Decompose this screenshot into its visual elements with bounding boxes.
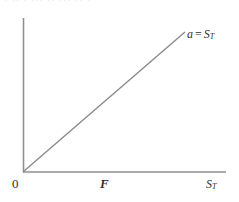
figure-container: · ·· · ··· ·· ··· ·· · 0 F ST a=ST <box>0 0 239 202</box>
equation-operator: = <box>193 27 204 41</box>
curve-equation-label: a=ST <box>187 27 214 42</box>
origin-label: 0 <box>12 176 19 192</box>
proportional-line <box>24 32 185 171</box>
equation-rhs-base: S <box>204 27 210 41</box>
x-axis-label-subscript: T <box>212 182 216 191</box>
x-axis-label: ST <box>206 177 216 192</box>
x-axis-tick-label-F: F <box>100 176 109 192</box>
equation-rhs-subscript: T <box>210 32 214 41</box>
